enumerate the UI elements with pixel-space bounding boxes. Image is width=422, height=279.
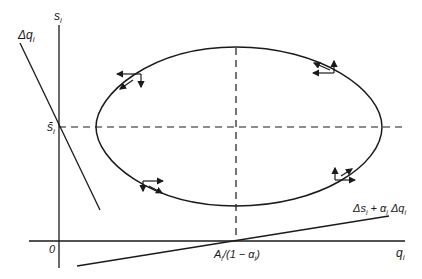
y-axis-label: si: [54, 9, 62, 25]
arrow-group-upper-left: [117, 74, 141, 89]
delta-s-label: Δsi + αi Δqi: [352, 202, 406, 216]
phase-diagram: si qi 0 s̄i Δqi Δsi + αi Δqi Ai/(1 − αi): [0, 0, 422, 279]
arrow-group-upper-right: [313, 61, 334, 73]
origin-label: 0: [49, 243, 56, 255]
s-bar-label: s̄i: [47, 120, 55, 136]
x-intercept-label: Ai/(1 − αi): [213, 248, 260, 262]
delta-q-label: Δqi: [17, 28, 35, 44]
arrow-group-lower-left: [143, 181, 163, 193]
x-axis-label: qi: [396, 246, 405, 262]
